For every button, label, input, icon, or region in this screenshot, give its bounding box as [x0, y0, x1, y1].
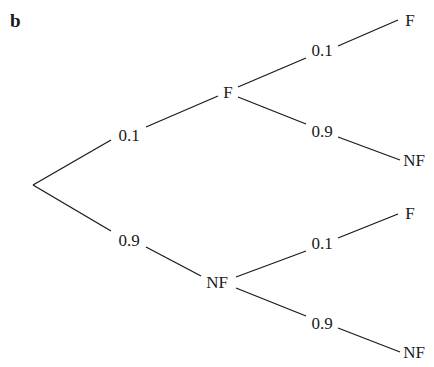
part-label: b	[10, 10, 21, 31]
prob-F-F: 0.1	[311, 41, 332, 60]
leaf-F-NF: NF	[403, 151, 425, 170]
probability-tree-diagram: b 0.1 0.9 F NF 0.1 F 0.9 NF 0.1 F 0.9 NF	[0, 0, 434, 367]
edge-root-to-NF	[33, 185, 201, 276]
prob-root-F: 0.1	[118, 126, 139, 145]
prob-NF-NF: 0.9	[311, 314, 332, 333]
leaf-NF-F: F	[405, 204, 414, 223]
prob-root-NF: 0.9	[118, 231, 139, 250]
leaf-NF-NF: NF	[403, 343, 425, 362]
prob-F-NF: 0.9	[311, 122, 332, 141]
node-NF: NF	[206, 273, 228, 292]
leaf-F-F: F	[405, 11, 414, 30]
prob-NF-F: 0.1	[311, 234, 332, 253]
node-F: F	[223, 83, 232, 102]
